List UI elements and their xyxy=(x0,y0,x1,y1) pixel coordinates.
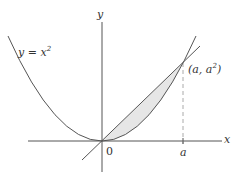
x-axis-label: x xyxy=(224,134,230,145)
point-label: (a, a2) xyxy=(188,63,221,75)
curve-label: y = x2 xyxy=(18,46,51,58)
origin-label: 0 xyxy=(106,146,113,157)
tick-label-a: a xyxy=(180,147,187,158)
point-label-prefix: (a, a xyxy=(188,63,212,76)
curve-label-exponent: 2 xyxy=(47,45,51,53)
area-between-curves-diagram: y x y = x2 (a, a2) 0 a xyxy=(0,0,233,174)
y-axis-label: y xyxy=(97,9,103,20)
curve-label-main: y = x xyxy=(18,46,47,59)
line-y-equals-x xyxy=(82,46,200,160)
diagram-graphics xyxy=(0,0,233,174)
point-label-suffix: ) xyxy=(217,63,221,76)
